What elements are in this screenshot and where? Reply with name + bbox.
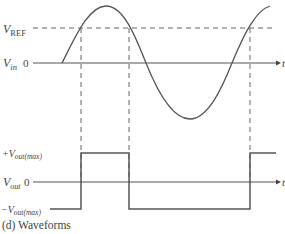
vref-label: VREF — [3, 22, 26, 38]
vout-t-label: t — [282, 176, 285, 188]
vout-square-wave — [50, 153, 276, 209]
neg-vout-max-label: −Vout(max) — [1, 204, 41, 217]
vout-axis-arrow-icon — [276, 180, 281, 185]
vin-t-label: t — [282, 57, 285, 69]
pos-vout-max-label: +Vout(max) — [2, 148, 42, 161]
vout-label: Vout — [3, 175, 21, 191]
vout-zero-label: 0 — [24, 176, 30, 188]
waveforms-diagram: VREF Vin 0 t +Vout(max) Vout 0 −Vout(max… — [0, 0, 285, 234]
vin-axis-arrow-icon — [276, 61, 281, 66]
vin-zero-label: 0 — [23, 57, 29, 69]
figure-caption: (d) Waveforms — [2, 219, 71, 232]
vin-label: Vin — [3, 56, 17, 72]
